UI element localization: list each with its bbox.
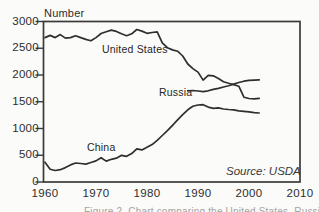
- series-line-united-states: [45, 30, 259, 99]
- y-tick-label: 2500: [4, 43, 39, 55]
- x-tick-label: 2010: [282, 188, 318, 200]
- x-tick-label: 1970: [78, 188, 114, 200]
- y-tick-label: 2000: [4, 69, 39, 81]
- y-tick-label: 3000: [4, 16, 39, 28]
- series-label-china: China: [87, 141, 115, 153]
- plot-frame: [44, 22, 301, 183]
- figure-caption-clipped: Figure 2. Chart comparing the United Sta…: [84, 206, 319, 212]
- series-label-united-states: United States: [102, 43, 168, 55]
- source-note: Source: USDA: [226, 165, 301, 177]
- y-tick-label: 1000: [4, 123, 39, 135]
- figure-scan: Number 050010001500200025003000 19601970…: [0, 0, 319, 212]
- y-axis-title: Number: [44, 7, 84, 19]
- series-label-russia: Russia: [159, 86, 192, 98]
- x-tick-label: 1990: [180, 188, 216, 200]
- x-tick-label: 2000: [231, 188, 267, 200]
- x-tick-label: 1960: [27, 188, 63, 200]
- x-tick-label: 1980: [129, 188, 165, 200]
- y-tick-label: 1500: [4, 96, 39, 108]
- series-line-china: [45, 105, 259, 171]
- y-tick-label: 500: [4, 150, 39, 162]
- line-chart: [0, 0, 319, 212]
